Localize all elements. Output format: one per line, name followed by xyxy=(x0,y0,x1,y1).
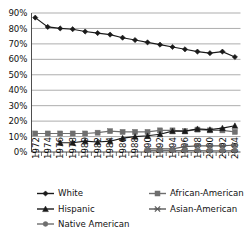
data-point-marker xyxy=(45,131,50,136)
legend-item-african-american[interactable]: African-American xyxy=(149,188,244,198)
data-point-marker xyxy=(108,129,113,134)
data-point-marker xyxy=(43,191,48,196)
data-point-marker xyxy=(232,148,237,153)
y-axis-tick-label: 10% xyxy=(8,132,27,142)
data-point-marker xyxy=(154,206,160,211)
x-axis-tick-label: 2002 xyxy=(218,137,228,159)
chart-container: 0%10%20%30%40%50%60%70%80%90%19721974197… xyxy=(0,0,245,231)
legend-label: African-American xyxy=(170,188,244,198)
legend-item-native-american[interactable]: Native American xyxy=(37,219,129,229)
y-axis-tick-label: 80% xyxy=(8,24,27,34)
data-point-marker xyxy=(220,148,225,153)
y-axis-tick-label: 50% xyxy=(8,70,27,80)
legend-label: Native American xyxy=(58,219,129,229)
data-point-marker xyxy=(183,148,188,153)
data-point-marker xyxy=(33,131,38,136)
data-point-marker xyxy=(70,131,75,136)
gridlines: 0%10%20%30%40%50%60%70%80%90% xyxy=(8,8,240,157)
chart-legend: WhiteAfrican-AmericanHispanicAsian-Ameri… xyxy=(37,188,244,229)
x-axis-tick-label: 1988 xyxy=(130,137,140,159)
data-point-marker xyxy=(170,44,175,49)
y-axis-tick-label: 40% xyxy=(8,85,27,95)
data-point-marker xyxy=(58,26,63,31)
data-point-marker xyxy=(182,47,187,52)
legend-item-asian-american[interactable]: Asian-American xyxy=(149,204,237,214)
data-point-marker xyxy=(95,30,100,35)
data-point-marker xyxy=(157,42,162,47)
data-point-marker xyxy=(95,130,100,135)
y-axis-tick-label: 20% xyxy=(8,116,27,126)
data-point-marker xyxy=(195,49,200,54)
data-point-marker xyxy=(132,37,137,42)
data-point-marker xyxy=(120,35,125,40)
data-point-marker xyxy=(108,32,113,37)
data-point-marker xyxy=(155,191,160,196)
x-axis-tick-label: 1974 xyxy=(43,137,53,159)
x-axis-tick-label: 1972 xyxy=(31,137,41,159)
data-point-marker xyxy=(120,129,125,134)
x-axis-tick-labels: 1972197419761978198019821984198619881990… xyxy=(31,137,241,159)
y-axis-tick-label: 60% xyxy=(8,54,27,64)
data-point-marker xyxy=(170,148,175,153)
y-axis-tick-label: 90% xyxy=(8,8,27,18)
data-point-marker xyxy=(207,51,212,56)
data-point-marker xyxy=(145,148,150,153)
y-axis-tick-label: 30% xyxy=(8,101,27,111)
data-point-marker xyxy=(158,148,163,153)
y-axis-tick-label: 0% xyxy=(14,147,28,157)
data-point-marker xyxy=(195,148,200,153)
series-white xyxy=(33,15,238,60)
data-point-marker xyxy=(208,148,213,153)
legend-item-hispanic[interactable]: Hispanic xyxy=(37,204,95,214)
data-point-marker xyxy=(232,54,237,59)
x-axis-tick-label: 2000 xyxy=(205,137,215,159)
data-point-marker xyxy=(232,129,237,134)
y-axis-tick-label: 70% xyxy=(8,39,27,49)
data-point-marker xyxy=(83,29,88,34)
legend-label: Hispanic xyxy=(58,204,95,214)
legend-label: White xyxy=(58,188,83,198)
legend-label: Asian-American xyxy=(170,204,237,214)
data-point-marker xyxy=(43,222,48,227)
data-point-marker xyxy=(220,49,225,54)
data-point-marker xyxy=(58,131,63,136)
line-chart: 0%10%20%30%40%50%60%70%80%90%19721974197… xyxy=(0,0,245,231)
legend-item-white[interactable]: White xyxy=(37,188,83,198)
data-point-marker xyxy=(83,131,88,136)
data-point-marker xyxy=(70,27,75,32)
